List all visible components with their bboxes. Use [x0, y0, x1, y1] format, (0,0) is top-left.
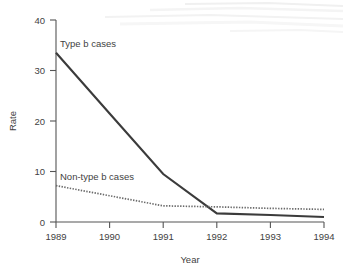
y-tick-label-0: 0: [40, 217, 45, 228]
y-tick-label-30: 30: [34, 65, 45, 76]
x-axis: [56, 222, 324, 228]
x-tick-label-1989: 1989: [45, 231, 66, 242]
y-axis-title: Rate: [7, 111, 18, 131]
y-tick-label-40: 40: [34, 15, 45, 26]
y-tick-label-10: 10: [34, 166, 45, 177]
y-tick-label-20: 20: [34, 116, 45, 127]
x-tick-label-1990: 1990: [99, 231, 120, 242]
y-axis: [50, 20, 56, 222]
series-annotation-non-type-b: Non-type b cases: [60, 171, 134, 182]
x-tick-label-1994: 1994: [313, 231, 334, 242]
x-tick-label-1991: 1991: [153, 231, 174, 242]
x-axis-title: Year: [180, 254, 199, 265]
chart-figure: 40 30 20 10 0 1989 1990 1991 1992 1993 1…: [0, 0, 343, 275]
series-annotation-type-b: Type b cases: [60, 38, 116, 49]
series-line-type-b: [56, 53, 324, 217]
x-tick-label-1992: 1992: [206, 231, 227, 242]
chart-plot-area: 40 30 20 10 0 1989 1990 1991 1992 1993 1…: [0, 0, 343, 275]
series-line-non-type-b: [56, 186, 324, 210]
x-tick-label-1993: 1993: [260, 231, 281, 242]
